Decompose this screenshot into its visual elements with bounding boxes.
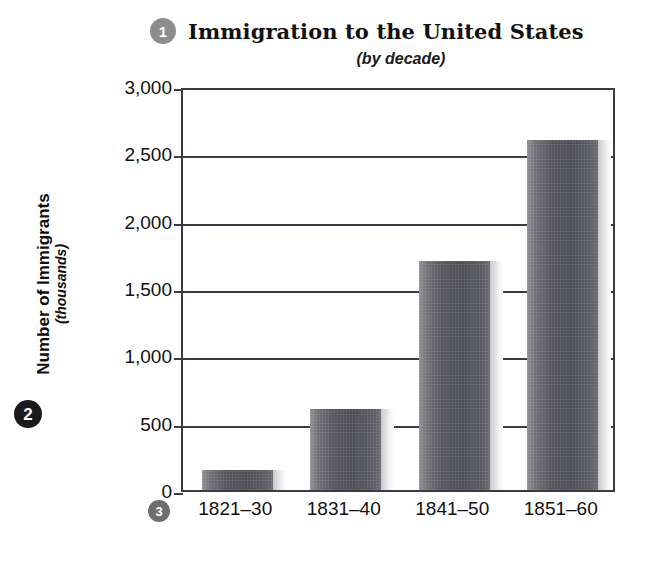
y-axis-tick [174,358,183,360]
callout-badge-3-icon: 3 [148,500,170,522]
chart-subtitle: (by decade) [186,50,616,68]
y-axis-tick-label: 2,000 [124,212,172,234]
y-axis-tick [174,89,183,91]
y-axis-tick [174,493,183,495]
y-axis-tick [174,224,183,226]
y-axis-tick-label: 2,500 [124,144,172,166]
y-axis-tick [174,291,183,293]
y-axis-tick-label: 3,000 [124,77,172,99]
bar-texture [527,140,598,490]
x-axis-tick-label: 1851–60 [524,498,598,520]
bar-texture [310,409,381,490]
x-axis-tick-label: 1831–40 [307,498,381,520]
bar [310,409,381,490]
bar-texture [202,470,273,490]
y-axis-tick-label: 1,500 [124,279,172,301]
chart-page: 1 Immigration to the United States (by d… [0,0,652,564]
bar-texture [419,261,490,490]
callout-badge-3-wrap: 3 [148,500,170,522]
x-axis-tick-label: 1841–50 [415,498,489,520]
y-axis-tick-label: 500 [140,414,172,436]
x-axis-tick-labels: 1821–301831–401841–501851–60 [181,498,615,526]
callout-badge-1-icon: 1 [150,18,176,44]
chart-title-row: 1 Immigration to the United States [150,18,620,44]
chart-title: Immigration to the United States [188,19,584,44]
y-axis-tick-label: 1,000 [124,346,172,368]
plot-area [181,88,615,492]
y-axis-tick [174,426,183,428]
y-axis-tick [174,156,183,158]
x-axis-tick-label: 1821–30 [198,498,272,520]
bar-series [183,90,613,490]
bar [419,261,490,490]
y-axis-tick-labels: 05001,0001,5002,0002,5003,000 [0,88,172,492]
bar [202,470,273,490]
bar [527,140,598,490]
